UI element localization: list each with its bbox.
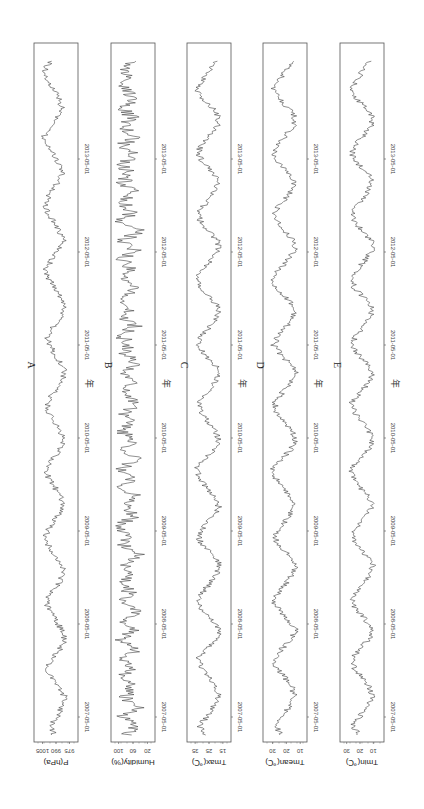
x-tick-label: 2012-05-01 [313, 237, 319, 268]
x-tick-label: 2010-05-01 [84, 423, 90, 454]
y-tick-label: 35 [191, 748, 198, 754]
x-tick-label: 2007-05-01 [313, 702, 319, 733]
y-tick-label: 30 [269, 748, 276, 754]
rotated-figure: 2007-05-012008-05-012009-05-012010-05-01… [0, 0, 424, 809]
y-tick-label: 25 [205, 748, 212, 754]
y-tick-label: 20 [143, 748, 150, 754]
x-tick-label: 2013-05-01 [237, 144, 243, 175]
x-tick-label: 2013-05-01 [84, 144, 90, 175]
x-tick-label: 2012-05-01 [237, 237, 243, 268]
panel-c: 2007-05-012008-05-012009-05-012010-05-01… [179, 43, 248, 767]
multi-panel-time-series: 2007-05-012008-05-012009-05-012010-05-01… [0, 0, 424, 809]
series-line-e [349, 61, 376, 735]
plot-frame [187, 43, 231, 742]
x-tick-label: 2010-05-01 [313, 423, 319, 454]
y-tick-label: 20 [282, 748, 289, 754]
panel-title: E [332, 362, 343, 368]
panel-title: D [255, 361, 266, 368]
y-axis-label: Tmax(℃) [192, 758, 227, 767]
x-axis-label: 年 [84, 379, 95, 388]
x-axis-label: 年 [390, 379, 401, 388]
plot-frame [340, 43, 384, 742]
x-tick-label: 2010-05-01 [390, 423, 396, 454]
y-tick-label: 975 [64, 748, 75, 754]
plot-frame [111, 43, 155, 742]
x-tick-label: 2008-05-01 [313, 609, 319, 640]
x-tick-label: 2009-05-01 [84, 516, 90, 547]
x-tick-label: 2013-05-01 [390, 144, 396, 175]
x-tick-label: 2013-05-01 [161, 144, 167, 175]
series-line-d [270, 61, 298, 735]
x-axis-label: 年 [237, 379, 248, 388]
x-tick-label: 2011-05-01 [313, 330, 319, 361]
panel-d: 2007-05-012008-05-012009-05-012010-05-01… [255, 43, 324, 767]
x-tick-label: 2012-05-01 [390, 237, 396, 268]
x-tick-label: 2009-05-01 [313, 516, 319, 547]
panel-b: 2007-05-012008-05-012009-05-012010-05-01… [103, 43, 172, 767]
x-tick-label: 2008-05-01 [390, 609, 396, 640]
y-tick-label: 60 [129, 748, 136, 754]
x-tick-label: 2008-05-01 [84, 609, 90, 640]
x-tick-label: 2007-05-01 [161, 702, 167, 733]
plot-frame [34, 43, 78, 742]
y-tick-label: 100 [113, 748, 124, 754]
y-tick-label: 10 [369, 748, 376, 754]
x-tick-label: 2008-05-01 [237, 609, 243, 640]
x-tick-label: 2007-05-01 [390, 702, 396, 733]
x-tick-label: 2009-05-01 [237, 516, 243, 547]
y-axis-label: Tmean(℃) [265, 758, 305, 767]
x-tick-label: 2011-05-01 [390, 330, 396, 361]
series-line-b [115, 61, 145, 735]
x-tick-label: 2011-05-01 [161, 330, 167, 361]
y-axis-label: Humidity(%) [111, 758, 155, 767]
panel-e: 2007-05-012008-05-012009-05-012010-05-01… [332, 43, 401, 767]
series-line-c [195, 61, 222, 735]
y-axis-label: P(hPa) [43, 758, 68, 767]
x-tick-label: 2009-05-01 [161, 516, 167, 547]
plot-frame [263, 43, 307, 742]
x-tick-label: 2011-05-01 [237, 330, 243, 361]
panel-a: 2007-05-012008-05-012009-05-012010-05-01… [26, 43, 95, 767]
y-tick-label: 30 [343, 748, 350, 754]
y-tick-label: 15 [219, 748, 226, 754]
x-tick-label: 2012-05-01 [84, 237, 90, 268]
y-axis-label: Tmin(℃) [346, 758, 378, 767]
x-tick-label: 2007-05-01 [237, 702, 243, 733]
x-axis-label: 年 [313, 379, 324, 388]
x-tick-label: 2008-05-01 [161, 609, 167, 640]
series-line-a [41, 61, 67, 735]
y-tick-label: 990 [50, 748, 61, 754]
x-tick-label: 2007-05-01 [84, 702, 90, 733]
panel-title: A [26, 361, 37, 369]
x-tick-label: 2010-05-01 [237, 423, 243, 454]
x-tick-label: 2010-05-01 [161, 423, 167, 454]
y-tick-label: 20 [356, 748, 363, 754]
panel-title: C [179, 362, 190, 369]
x-tick-label: 2012-05-01 [161, 237, 167, 268]
y-tick-label: 10 [296, 748, 303, 754]
x-tick-label: 2009-05-01 [390, 516, 396, 547]
y-tick-label: 1005 [35, 748, 49, 754]
x-axis-label: 年 [161, 379, 172, 388]
x-tick-label: 2013-05-01 [313, 144, 319, 175]
x-tick-label: 2011-05-01 [84, 330, 90, 361]
panel-title: B [103, 362, 114, 369]
